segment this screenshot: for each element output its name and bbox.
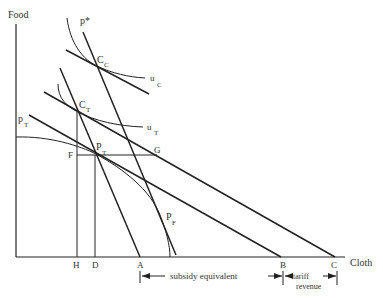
- revenue-label: revenue: [296, 282, 322, 291]
- ut-label: u T: [147, 122, 159, 137]
- trade-diagram: Food Cloth p* u C u T p T C C C T P T P …: [0, 0, 383, 298]
- tick-h: H: [73, 260, 80, 270]
- point-ct-label: C T: [79, 99, 91, 114]
- indifference-curve-ut: [58, 84, 143, 127]
- uc-label: u C: [150, 73, 162, 89]
- indifference-curve-uc: [67, 18, 145, 78]
- tick-a: A: [137, 260, 144, 270]
- svg-text:T: T: [154, 129, 159, 137]
- budget-line-ct-c: [44, 92, 335, 257]
- tick-c: C: [331, 260, 337, 270]
- point-g-label: G: [154, 145, 161, 155]
- svg-text:T: T: [86, 106, 91, 114]
- tariff-bracket: tariff revenue: [285, 271, 337, 291]
- subsidy-bracket: subsidy equivalent: [140, 271, 283, 285]
- tick-b: B: [280, 260, 286, 270]
- svg-text:C: C: [79, 99, 86, 110]
- pt-curve-label: p T: [18, 113, 29, 129]
- svg-text:C: C: [104, 61, 109, 69]
- tick-d: D: [92, 260, 99, 270]
- svg-text:C: C: [157, 81, 162, 89]
- budget-line-cc: [66, 50, 149, 94]
- svg-text:C: C: [97, 54, 104, 65]
- svg-text:F: F: [172, 219, 176, 227]
- p-star-label: p*: [80, 15, 90, 26]
- point-pf-label: P F: [166, 211, 176, 227]
- x-axis-label: Cloth: [350, 257, 372, 268]
- point-f-label: F: [68, 150, 73, 160]
- svg-text:T: T: [24, 121, 29, 129]
- tariff-label: tariff: [293, 272, 309, 281]
- subsidy-label: subsidy equivalent: [170, 271, 238, 281]
- y-axis-label: Food: [8, 9, 29, 20]
- svg-text:p: p: [18, 113, 23, 124]
- svg-text:u: u: [147, 122, 152, 132]
- svg-text:u: u: [150, 73, 155, 83]
- steep-line-ct-a: [60, 68, 140, 257]
- svg-text:T: T: [102, 149, 107, 157]
